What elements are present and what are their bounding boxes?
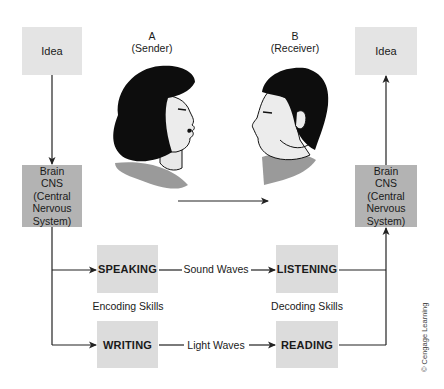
sender-woman-icon	[113, 66, 195, 189]
receiver-man-icon	[252, 68, 328, 185]
diagram-graphics	[0, 0, 444, 389]
